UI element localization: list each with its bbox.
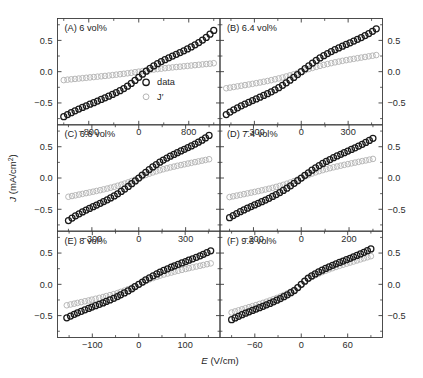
y-tick-label: 0.5 bbox=[40, 142, 53, 152]
data-point bbox=[343, 41, 349, 47]
series-j-prime bbox=[229, 253, 374, 315]
panel-title: (C) 6.8 vol% bbox=[65, 129, 116, 139]
panel-frame bbox=[58, 231, 221, 337]
data-point bbox=[93, 296, 99, 302]
y-tick-label: 0.0 bbox=[388, 67, 401, 77]
data-point bbox=[273, 184, 279, 190]
data-point bbox=[82, 307, 88, 313]
data-point bbox=[111, 184, 117, 190]
x-axis-title: E (V/cm) bbox=[201, 355, 238, 366]
legend: dataJ′ bbox=[143, 77, 176, 102]
x-tick-label: 60 bbox=[343, 340, 353, 350]
multi-panel-scatter-figure: −8000800−0.50.00.5(A) 6 vol%dataJ′−30003… bbox=[0, 0, 423, 378]
data-point bbox=[78, 308, 84, 314]
data-point bbox=[98, 96, 104, 102]
data-point bbox=[229, 310, 235, 316]
series-data bbox=[65, 132, 212, 223]
series-j-prime bbox=[61, 60, 217, 82]
panel-frame bbox=[220, 125, 383, 231]
y-tick-label: 0.0 bbox=[40, 173, 53, 183]
legend-marker bbox=[143, 79, 149, 85]
y-tick-label: 0.5 bbox=[388, 248, 401, 258]
legend-marker bbox=[143, 94, 149, 100]
data-point bbox=[83, 103, 89, 109]
data-point bbox=[161, 267, 167, 273]
y-tick-label: 0.0 bbox=[388, 173, 401, 183]
data-point bbox=[108, 185, 114, 191]
data-point bbox=[317, 63, 323, 69]
series-data bbox=[229, 246, 374, 323]
data-point bbox=[87, 101, 93, 107]
y-axis-title: J (mA/cm2) bbox=[7, 154, 19, 203]
panel-f: −60060−0.50.00.5(F) 9.3 vol% bbox=[220, 231, 406, 350]
data-point bbox=[96, 301, 102, 307]
panel-d: −2000200−0.50.00.5(D) 7.4 vol% bbox=[220, 125, 406, 244]
data-point bbox=[270, 185, 276, 191]
data-point bbox=[93, 303, 99, 309]
y-tick-label: −0.5 bbox=[388, 311, 406, 321]
y-tick-label: 0.0 bbox=[40, 67, 53, 77]
panel-c: −3000300−0.50.00.5(C) 6.8 vol% bbox=[34, 125, 220, 244]
data-point bbox=[95, 98, 101, 104]
data-point bbox=[208, 261, 214, 267]
x-tick-label: 0 bbox=[136, 340, 141, 350]
series-data bbox=[64, 248, 214, 321]
data-point bbox=[193, 254, 199, 260]
data-point bbox=[265, 78, 271, 84]
data-point bbox=[157, 167, 163, 173]
y-tick-label: −0.5 bbox=[388, 98, 406, 108]
series-j-prime bbox=[223, 52, 379, 91]
series-j-prime bbox=[66, 156, 212, 199]
data-point bbox=[268, 77, 274, 83]
series-data bbox=[61, 27, 217, 119]
figure-container: −8000800−0.50.00.5(A) 6 vol%dataJ′−30003… bbox=[0, 0, 423, 378]
panel-title: (E) 8 vol% bbox=[65, 236, 107, 246]
data-point bbox=[160, 166, 166, 172]
data-point bbox=[347, 40, 353, 46]
data-point bbox=[206, 156, 212, 162]
y-tick-label: −0.5 bbox=[388, 205, 406, 215]
data-point bbox=[102, 95, 108, 101]
x-tick-label: −100 bbox=[82, 340, 103, 350]
x-tick-label: −60 bbox=[247, 340, 263, 350]
data-point bbox=[211, 60, 217, 66]
data-point bbox=[370, 156, 376, 162]
y-tick-label: −0.5 bbox=[34, 205, 52, 215]
data-point bbox=[115, 183, 121, 189]
panel-b: −3000300−0.50.00.5(B) 6.4 vol% bbox=[220, 19, 406, 138]
series-j-prime bbox=[64, 261, 214, 309]
data-point bbox=[190, 256, 196, 262]
panel-title: (B) 6.4 vol% bbox=[227, 23, 277, 33]
y-tick-label: −0.5 bbox=[34, 98, 52, 108]
data-point bbox=[91, 100, 97, 106]
legend-label: data bbox=[157, 77, 176, 87]
x-tick-label: 800 bbox=[181, 127, 196, 137]
series-data bbox=[223, 26, 379, 118]
data-point bbox=[111, 295, 117, 301]
data-point bbox=[207, 31, 213, 37]
series-data bbox=[227, 135, 376, 220]
data-point bbox=[324, 166, 330, 172]
svg-text:E (V/cm): E (V/cm) bbox=[201, 355, 238, 366]
y-tick-label: 0.5 bbox=[40, 248, 53, 258]
panel-a: −8000800−0.50.00.5(A) 6 vol%dataJ′ bbox=[34, 19, 220, 138]
panel-title: (D) 7.4 vol% bbox=[227, 129, 278, 139]
y-tick-label: 0.0 bbox=[40, 280, 53, 290]
x-tick-label: 100 bbox=[178, 340, 193, 350]
y-tick-label: 0.5 bbox=[388, 36, 401, 46]
panel-frame bbox=[220, 231, 383, 337]
panel-title: (F) 9.3 vol% bbox=[227, 236, 277, 246]
data-point bbox=[211, 27, 217, 33]
panel-title: (A) 6 vol% bbox=[65, 23, 107, 33]
data-point bbox=[76, 106, 82, 112]
data-point bbox=[276, 76, 282, 82]
data-point bbox=[179, 267, 185, 273]
data-point bbox=[179, 260, 185, 266]
data-point bbox=[250, 98, 256, 104]
x-tick-label: 300 bbox=[340, 127, 355, 137]
svg-text:J (mA/cm2): J (mA/cm2) bbox=[7, 154, 19, 203]
data-point bbox=[325, 61, 331, 67]
y-tick-label: −0.5 bbox=[34, 311, 52, 321]
data-point bbox=[253, 96, 259, 102]
panel-e: −1000100−0.50.00.5(E) 8 vol% bbox=[34, 231, 220, 350]
